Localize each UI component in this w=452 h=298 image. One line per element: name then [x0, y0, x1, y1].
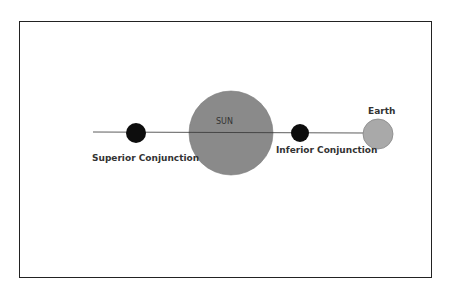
inferior-conjunction-label: Inferior Conjunction [276, 145, 377, 155]
conjunction-diagram [0, 0, 452, 298]
planet-inferior-conjunction [291, 124, 309, 142]
earth-label: Earth [368, 106, 395, 116]
sun-label: SUN [216, 117, 233, 126]
planet-superior-conjunction [126, 123, 146, 143]
superior-conjunction-label: Superior Conjunction [92, 153, 199, 163]
